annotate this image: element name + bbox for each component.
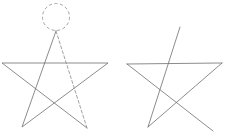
- left-star-group: [2, 4, 108, 129]
- left-star-solid-path: [2, 31, 108, 128]
- apex-circle-icon: [43, 4, 70, 31]
- left-star-dashed-closing-edge: [56, 31, 87, 128]
- figure-canvas: Two pentagram figures: [0, 0, 225, 137]
- right-star-group: [127, 27, 222, 131]
- right-star-apex-overshoot-edge: [148, 27, 180, 127]
- right-star-top-chord-edge: [127, 63, 222, 64]
- right-star-right-diagonal-edge: [148, 63, 222, 127]
- right-star-left-diagonal-edge: [127, 64, 213, 131]
